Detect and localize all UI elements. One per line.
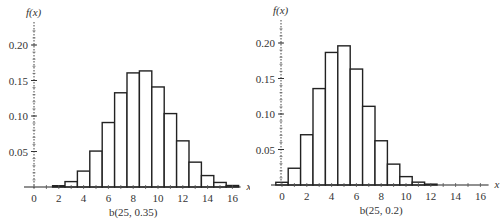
bar xyxy=(325,52,337,185)
y-tick-label: 0.20 xyxy=(256,37,276,49)
x-tick-label: 2 xyxy=(304,190,310,202)
x-tick-label: 12 xyxy=(425,190,436,202)
bar xyxy=(177,141,189,187)
histogram-b25-02: 0246810121416x0.050.100.150.20f(x)b(25, … xyxy=(250,0,503,221)
x-tick-label: 10 xyxy=(153,192,165,204)
x-tick-label: 4 xyxy=(81,192,87,204)
y-tick-label: 0.10 xyxy=(256,108,276,120)
chart-b25-035: 0246810121416x0.050.100.150.20f(x)b(25, … xyxy=(0,0,250,221)
x-tick-label: 14 xyxy=(450,190,462,202)
x-tick-label: 10 xyxy=(401,190,413,202)
y-tick-label: 0.20 xyxy=(9,39,29,51)
x-tick-label: 6 xyxy=(354,190,360,202)
histogram-b25-035: 0246810121416x0.050.100.150.20f(x)b(25, … xyxy=(0,0,250,221)
x-tick-label: 16 xyxy=(227,192,239,204)
y-tick-label: 0.10 xyxy=(9,110,29,122)
x-tick-label: 8 xyxy=(378,190,384,202)
bar xyxy=(375,141,387,185)
bar xyxy=(127,73,139,187)
bar xyxy=(164,114,176,187)
bar xyxy=(288,168,300,185)
y-tick-label: 0.05 xyxy=(9,146,29,158)
y-tick-label: 0.05 xyxy=(256,144,276,156)
y-tick-label: 0.15 xyxy=(256,73,276,85)
bar xyxy=(152,87,164,187)
bar xyxy=(313,89,325,185)
x-tick-label: 6 xyxy=(106,192,112,204)
y-axis-label: f(x) xyxy=(273,4,289,17)
bar xyxy=(387,164,399,185)
chart-caption: b(25, 0.35) xyxy=(109,206,158,219)
bar xyxy=(102,123,114,187)
x-tick-label: 14 xyxy=(202,192,214,204)
bar xyxy=(90,151,102,187)
bars xyxy=(276,46,437,185)
bar xyxy=(139,71,151,187)
x-tick-label: 8 xyxy=(130,192,136,204)
bar xyxy=(301,135,313,185)
chart-caption: b(25, 0.2) xyxy=(360,204,403,217)
bar xyxy=(115,93,127,187)
x-tick-label: 0 xyxy=(279,190,285,202)
x-axis-label: x xyxy=(494,178,500,190)
bar xyxy=(363,106,375,185)
x-tick-label: 12 xyxy=(177,192,188,204)
x-tick-label: 2 xyxy=(56,192,62,204)
bar xyxy=(77,171,89,187)
x-tick-label: 4 xyxy=(329,190,335,202)
bar xyxy=(350,69,362,185)
x-tick-label: 16 xyxy=(475,190,487,202)
bar xyxy=(189,162,201,187)
bar xyxy=(338,46,350,185)
bars xyxy=(53,71,239,187)
y-tick-label: 0.15 xyxy=(9,75,29,87)
chart-b25-02: 0246810121416x0.050.100.150.20f(x)b(25, … xyxy=(250,0,503,221)
x-tick-label: 0 xyxy=(31,192,37,204)
y-axis-label: f(x) xyxy=(26,6,42,19)
